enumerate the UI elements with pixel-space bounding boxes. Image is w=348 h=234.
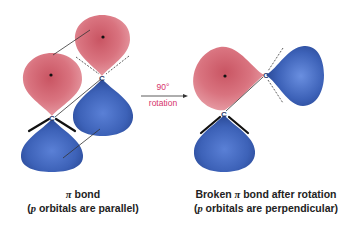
back-red-p-lobe bbox=[75, 15, 130, 76]
carbon-label: C bbox=[99, 74, 105, 83]
carbon-label: C bbox=[49, 114, 55, 123]
rotation-angle-label: 90° bbox=[142, 82, 184, 92]
right-caption-subtitle: (p orbitals are perpendicular) bbox=[186, 202, 346, 216]
top-red-p-lobe bbox=[193, 47, 264, 111]
rotated-blue-p-lobe bbox=[266, 46, 324, 106]
left-caption-title: π bond bbox=[10, 188, 156, 202]
electron-dot bbox=[223, 74, 226, 77]
back-blue-p-lobe bbox=[73, 79, 133, 136]
right-molecule: C C bbox=[193, 46, 324, 172]
front-red-p-lobe bbox=[23, 53, 82, 116]
left-caption-subtitle: (p orbitals are parallel) bbox=[10, 202, 156, 216]
electron-dot bbox=[49, 73, 52, 76]
carbon-label: C bbox=[263, 71, 269, 80]
rotation-label: rotation bbox=[138, 98, 188, 108]
left-molecule: C C bbox=[21, 15, 133, 172]
left-caption: π bond (p orbitals are parallel) bbox=[10, 188, 156, 215]
bottom-blue-p-lobe bbox=[194, 115, 255, 172]
electron-dot bbox=[101, 35, 104, 38]
right-caption-title: Broken π bond after rotation bbox=[186, 188, 346, 202]
carbon-label: C bbox=[221, 110, 227, 119]
right-caption: Broken π bond after rotation (p orbitals… bbox=[186, 188, 346, 215]
front-blue-p-lobe bbox=[21, 119, 83, 172]
